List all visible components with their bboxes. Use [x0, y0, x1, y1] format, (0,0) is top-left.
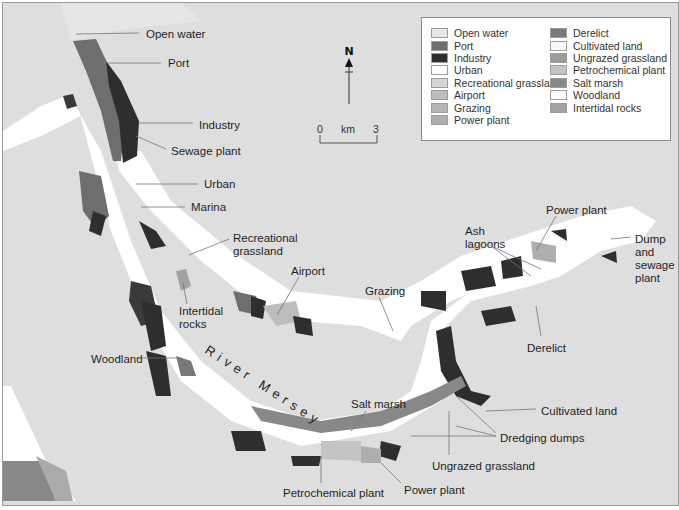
legend-swatch [550, 28, 567, 38]
legend-item: Airport [431, 89, 561, 101]
label-cultivated-land: Cultivated land [541, 405, 617, 418]
label-dredging-dumps: Dredging dumps [500, 432, 584, 445]
legend-column-2: Derelict Cultivated land Ungrazed grassl… [550, 27, 667, 114]
label-woodland: Woodland [91, 353, 143, 366]
legend-item: Industry [431, 52, 561, 64]
legend-label: Urban [454, 64, 483, 76]
legend: Open water Port Industry Urban Recreatio… [421, 17, 671, 141]
legend-swatch [431, 78, 448, 88]
legend-item: Derelict [550, 27, 667, 39]
label-power-plant-ne: Power plant [546, 204, 607, 217]
label-ash-lagoons: Ash lagoons [465, 225, 505, 251]
legend-swatch [431, 90, 448, 100]
legend-label: Salt marsh [573, 77, 623, 89]
label-petrochemical-plant: Petrochemical plant [283, 487, 384, 500]
legend-swatch [550, 65, 567, 75]
land-use-map: Open water Port Industry Sewage plant Ur… [2, 2, 679, 506]
label-open-water: Open water [146, 28, 205, 41]
legend-label: Industry [454, 52, 491, 64]
legend-item: Port [431, 39, 561, 51]
legend-swatch [431, 28, 448, 38]
legend-item: Open water [431, 27, 561, 39]
label-airport: Airport [291, 265, 325, 278]
legend-swatch [431, 115, 448, 125]
north-label: N [339, 45, 359, 58]
legend-label: Ungrazed grassland [573, 52, 667, 64]
legend-label: Open water [454, 27, 508, 39]
legend-item: Ungrazed grassland [550, 52, 667, 64]
legend-swatch [431, 65, 448, 75]
label-ungrazed-grassland: Ungrazed grassland [432, 460, 535, 473]
label-intertidal-rocks: Intertidal rocks [179, 305, 223, 331]
legend-label: Airport [454, 89, 485, 101]
legend-item: Petrochemical plant [550, 64, 667, 76]
legend-label: Recreational grassland [454, 77, 561, 89]
label-recreational-grassland: Recreational grassland [233, 232, 298, 258]
legend-swatch [431, 103, 448, 113]
label-grazing: Grazing [365, 285, 405, 298]
legend-swatch [550, 53, 567, 63]
label-power-plant-s: Power plant [404, 484, 465, 497]
north-arrow: N [339, 45, 359, 108]
legend-label: Intertidal rocks [573, 102, 641, 114]
legend-swatch [431, 53, 448, 63]
label-salt-marsh: Salt marsh [351, 398, 406, 411]
legend-swatch [550, 41, 567, 51]
legend-item: Power plant [431, 114, 561, 126]
label-sewage-plant: Sewage plant [171, 145, 241, 158]
legend-item: Grazing [431, 101, 561, 113]
legend-item: Recreational grassland [431, 77, 561, 89]
label-industry: Industry [199, 119, 240, 132]
legend-label: Derelict [573, 27, 609, 39]
legend-swatch [550, 78, 567, 88]
legend-item: Urban [431, 64, 561, 76]
scale-line [315, 133, 385, 157]
legend-item: Salt marsh [550, 77, 667, 89]
legend-label: Woodland [573, 89, 620, 101]
north-arrow-icon [339, 58, 359, 104]
label-port: Port [168, 57, 189, 70]
legend-column-1: Open water Port Industry Urban Recreatio… [431, 27, 561, 126]
label-marina: Marina [191, 201, 226, 214]
legend-swatch [550, 90, 567, 100]
legend-label: Grazing [454, 102, 491, 114]
legend-item: Intertidal rocks [550, 101, 667, 113]
legend-item: Woodland [550, 89, 667, 101]
legend-label: Port [454, 40, 473, 52]
label-urban: Urban [204, 178, 235, 191]
legend-swatch [550, 103, 567, 113]
legend-swatch [431, 41, 448, 51]
legend-label: Petrochemical plant [573, 64, 665, 76]
legend-item: Cultivated land [550, 39, 667, 51]
label-dump-sewage-plant: Dump and sewage plant [635, 233, 675, 285]
legend-label: Power plant [454, 114, 509, 126]
label-derelict: Derelict [527, 342, 566, 355]
legend-label: Cultivated land [573, 40, 642, 52]
